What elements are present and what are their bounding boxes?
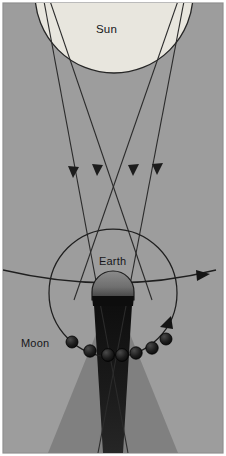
moon-sphere-5 [130, 347, 142, 359]
moon-sphere-4 [116, 349, 129, 362]
diagram-canvas [0, 0, 226, 456]
eclipse-diagram-figure: Sun Earth Moon [0, 0, 226, 456]
earth-dark-side [92, 296, 134, 306]
moon-sphere-1 [66, 336, 78, 348]
moon-sphere-7 [160, 333, 172, 345]
moon-sphere-2 [84, 345, 96, 357]
moon-sphere-6 [146, 342, 158, 354]
moon-sphere-3 [102, 349, 115, 362]
